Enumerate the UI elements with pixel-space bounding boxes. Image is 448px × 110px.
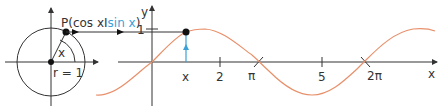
radius-label: r = 1 <box>53 66 83 80</box>
graph-point <box>183 29 190 36</box>
y-tick-label: 1 <box>137 23 145 37</box>
sine-unit-circle-diagram: x r = 1 P(cos xIsin x) y x 1 2 π 5 2π x <box>0 0 448 110</box>
x-marker-label: x <box>182 70 189 84</box>
x-tick-label-5: 5 <box>318 70 326 84</box>
y-axis-label: y <box>141 5 148 19</box>
center-point <box>48 59 54 65</box>
x-tick-label-2pi: 2π <box>367 69 382 83</box>
point-label-prefix: P(cos x <box>61 16 104 30</box>
x-tick-label-pi: π <box>248 69 255 83</box>
x-axis-label: x <box>428 67 435 81</box>
sin-up-arrow-icon <box>183 44 189 50</box>
point-p-label: P(cos xIsin x) <box>61 16 140 30</box>
angle-label: x <box>58 46 65 60</box>
graph-group: y x 1 2 π 5 2π x <box>96 5 437 106</box>
point-label-sin: sin x <box>108 16 136 30</box>
unit-circle-group: x r = 1 P(cos xIsin x) <box>5 8 140 106</box>
x-tick-label-2: 2 <box>216 70 224 84</box>
